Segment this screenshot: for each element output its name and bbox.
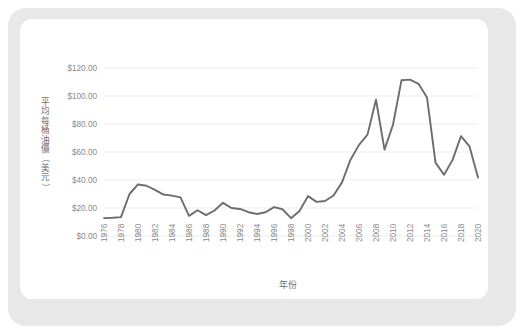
x-tick-label: 1978 bbox=[117, 223, 126, 242]
x-tick-label: 1990 bbox=[219, 223, 228, 242]
x-tick-label: 2016 bbox=[440, 223, 449, 242]
x-tick-label: 1984 bbox=[168, 223, 177, 242]
x-tick-label: 1996 bbox=[270, 223, 279, 242]
y-tick-label: $80.00 bbox=[72, 120, 97, 129]
x-tick-label: 2006 bbox=[355, 223, 364, 242]
x-axis-title: 年份 bbox=[279, 279, 297, 290]
x-tick-label: 1988 bbox=[202, 223, 211, 242]
y-tick-label: $100.00 bbox=[67, 92, 97, 101]
x-tick-label: 2020 bbox=[474, 223, 483, 242]
x-tick-label: 1998 bbox=[287, 223, 296, 242]
x-tick-label: 1992 bbox=[236, 223, 245, 242]
chart-plot-area: $0.00$20.00$40.00$60.00$80.00$100.00$120… bbox=[0, 0, 524, 334]
x-tick-label: 1994 bbox=[253, 223, 262, 242]
gridlines-group bbox=[104, 68, 478, 236]
x-tick-label: 2014 bbox=[423, 223, 432, 242]
y-tick-label: $40.00 bbox=[72, 176, 97, 185]
x-tick-label: 2008 bbox=[372, 223, 381, 242]
y-tick-label: $20.00 bbox=[72, 204, 97, 213]
series-line-oil-price bbox=[104, 80, 478, 219]
y-tick-labels-group: $0.00$20.00$40.00$60.00$80.00$100.00$120… bbox=[67, 64, 97, 241]
y-tick-label: $0.00 bbox=[77, 232, 98, 241]
x-tick-label: 2000 bbox=[304, 223, 313, 242]
x-tick-label: 2002 bbox=[321, 223, 330, 242]
x-tick-label: 1980 bbox=[134, 223, 143, 242]
x-tick-label: 1982 bbox=[151, 223, 160, 242]
x-tick-label: 2012 bbox=[406, 223, 415, 242]
x-tick-labels-group: 1976197819801982198419861988199019921994… bbox=[100, 223, 483, 242]
x-tick-label: 2010 bbox=[389, 223, 398, 242]
x-tick-label: 1986 bbox=[185, 223, 194, 242]
x-tick-label: 1976 bbox=[100, 223, 109, 242]
y-tick-label: $120.00 bbox=[67, 64, 97, 73]
x-tick-label: 2004 bbox=[338, 223, 347, 242]
y-tick-label: $60.00 bbox=[72, 148, 97, 157]
oil-price-line-chart: 平均每桶油價（美元） $0.00$20.00$40.00$60.00$80.00… bbox=[0, 0, 524, 334]
x-tick-label: 2018 bbox=[457, 223, 466, 242]
